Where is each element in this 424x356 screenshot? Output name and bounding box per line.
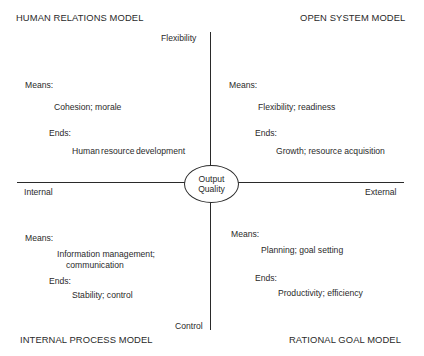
competing-values-diagram: Output Quality Flexibility Control Inter… (0, 0, 424, 356)
quadrant-title: HUMAN RELATIONS MODEL (16, 13, 143, 23)
means-label: Means: (229, 80, 257, 90)
ends-text: Growth; resource acquisition (276, 146, 385, 156)
means-label: Means: (231, 229, 259, 239)
center-label: Output Quality (198, 174, 225, 194)
axis-label-control: Control (175, 321, 203, 331)
ends-text: Human resource development (72, 146, 185, 156)
ends-text: Productivity; efficiency (278, 288, 363, 298)
means-text: Planning; goal setting (261, 245, 343, 255)
quadrant-title: INTERNAL PROCESS MODEL (20, 335, 153, 345)
axis-label-flexibility: Flexibility (161, 33, 196, 43)
quadrant-title: RATIONAL GOAL MODEL (289, 335, 401, 345)
means-text-line2: communication (66, 260, 124, 270)
center-ellipse: Output Quality (184, 165, 239, 203)
axis-label-internal: Internal (24, 187, 53, 197)
center-label-line1: Output (199, 174, 225, 184)
center-label-line2: Quality (198, 184, 225, 194)
quadrant-title: OPEN SYSTEM MODEL (300, 13, 405, 23)
means-label: Means: (25, 80, 53, 90)
means-text: Cohesion; morale (54, 102, 121, 112)
means-text-line1: Information management; (57, 249, 155, 259)
ends-label: Ends: (255, 128, 277, 138)
means-text: Flexibility; readiness (258, 102, 335, 112)
ends-label: Ends: (49, 128, 71, 138)
means-label: Means: (25, 233, 53, 243)
ends-label: Ends: (49, 276, 71, 286)
axis-label-external: External (365, 187, 397, 197)
ends-label: Ends: (255, 273, 277, 283)
ends-text: Stability; control (72, 290, 133, 300)
